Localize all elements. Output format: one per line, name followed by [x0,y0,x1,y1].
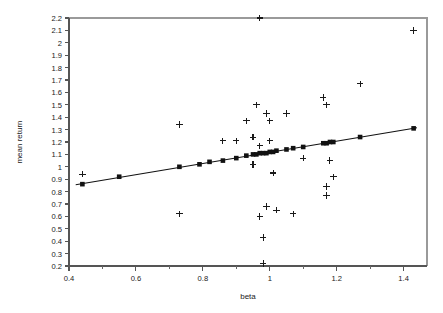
y-tick-label: 0.7 [51,200,62,209]
plot-canvas: 0.20.30.40.50.60.70.80.911.11.21.31.41.5… [0,0,443,313]
data-point-square [331,140,336,145]
data-point-cross [253,102,259,108]
data-point-cross [257,213,263,219]
data-point-cross [327,157,333,163]
data-point-square [358,135,363,140]
x-tick-label: 0.8 [198,274,209,283]
y-tick-label: 0.9 [51,175,62,184]
data-point-cross [300,155,306,161]
data-point-cross [273,207,279,213]
data-point-cross [323,102,329,108]
y-tick-label: 1.6 [51,88,62,97]
data-point-cross [320,94,326,100]
y-tick-label: 1.7 [51,76,62,85]
data-point-square [197,162,202,167]
data-point-cross [263,203,269,209]
data-point-cross [263,110,269,116]
y-tick-label: 2.1 [51,26,62,35]
x-tick-label: 1 [268,274,272,283]
x-tick-label: 0.6 [131,274,142,283]
y-tick-label: 1.8 [51,64,62,73]
series-observed [79,15,417,267]
data-point-cross [330,174,336,180]
data-point-cross [260,234,266,240]
data-point-cross [283,110,289,116]
y-tick-label: 2.2 [51,14,62,23]
y-tick-label: 0.2 [51,262,62,271]
data-point-cross [257,15,263,21]
y-tick-label: 0.3 [51,250,62,259]
data-point-square [284,147,289,152]
data-point-cross [250,134,256,140]
data-point-square [80,182,85,187]
data-point-cross [290,211,296,217]
y-tick-label: 1 [58,163,62,172]
data-point-cross [267,118,273,124]
x-tick-label: 0.4 [64,274,75,283]
y-tick-label: 0.5 [51,225,62,234]
x-tick-label: 1.2 [331,274,342,283]
data-point-square [234,156,239,161]
data-point-square [117,174,122,179]
data-point-cross [270,170,276,176]
data-point-cross [176,121,182,127]
series-fitted [80,126,416,186]
data-point-square [301,145,306,150]
data-point-cross [323,192,329,198]
y-tick-label: 2 [58,39,62,48]
data-point-square [221,158,226,163]
data-point-square [411,126,416,131]
data-point-square [274,148,279,153]
data-point-cross [357,81,363,87]
y-tick-label: 1.2 [51,138,62,147]
data-point-cross [410,27,416,33]
y-tick-label: 1.3 [51,126,62,135]
y-tick-label: 1.5 [51,101,62,110]
data-point-cross [323,183,329,189]
x-tick-label: 1.4 [398,274,409,283]
data-point-square [177,165,182,170]
data-point-cross [243,118,249,124]
plot-frame [69,18,427,266]
data-point-cross [233,138,239,144]
y-axis-label: mean return [15,120,24,163]
data-point-square [207,160,212,165]
data-point-square [291,146,296,151]
data-point-cross [250,161,256,167]
data-point-cross [267,138,273,144]
data-point-cross [176,211,182,217]
y-tick-label: 0.6 [51,212,62,221]
y-tick-label: 1.9 [51,51,62,60]
y-tick-label: 0.4 [51,237,62,246]
data-point-square [244,153,249,158]
y-tick-label: 0.8 [51,188,62,197]
data-point-cross [79,171,85,177]
data-point-cross [257,143,263,149]
data-point-cross [220,138,226,144]
y-tick-label: 1.1 [51,150,62,159]
y-tick-label: 1.4 [51,113,62,122]
scatter-plot-figure: 0.20.30.40.50.60.70.80.911.11.21.31.41.5… [0,0,443,313]
x-axis-label: beta [240,292,256,301]
